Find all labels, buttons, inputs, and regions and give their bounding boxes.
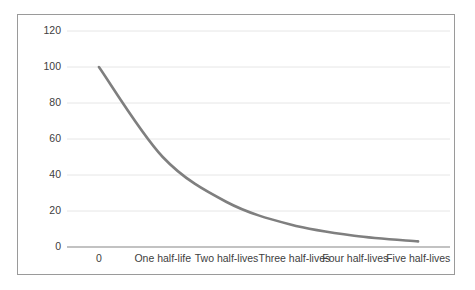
chart-container: 020406080100120 0One half-lifeTwo half-l… [17, 14, 455, 275]
y-tick-label: 0 [55, 241, 61, 252]
y-tick-label: 80 [49, 97, 61, 108]
decay-curve [99, 67, 418, 241]
x-tick-label: Four half-lives [322, 253, 386, 264]
x-tick-label: Two half-lives [195, 253, 259, 264]
gridlines [67, 31, 450, 211]
x-tick-label: Five half-lives [386, 253, 450, 264]
chart-plot-area [18, 15, 454, 274]
x-tick-label: Three half-lives [259, 253, 323, 264]
x-tick-label: One half-life [131, 253, 195, 264]
y-tick-label: 60 [49, 133, 61, 144]
y-tick-label: 100 [43, 61, 61, 72]
y-tick-label: 20 [49, 205, 61, 216]
y-tick-label: 40 [49, 169, 61, 180]
series-line [99, 67, 418, 241]
y-tick-label: 120 [43, 25, 61, 36]
x-tick-label: 0 [67, 253, 131, 264]
